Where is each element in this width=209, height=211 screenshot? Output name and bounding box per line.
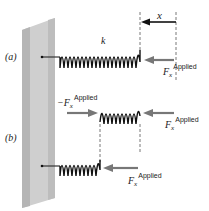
label-part-a: (a) bbox=[5, 52, 17, 62]
force-subscript: x bbox=[169, 71, 172, 79]
force-superscript: Applied bbox=[175, 116, 198, 123]
applied-force-arrow-a bbox=[144, 56, 174, 64]
spring-b-top bbox=[100, 112, 140, 125]
wall bbox=[22, 18, 55, 208]
force-superscript: Applied bbox=[173, 63, 196, 70]
neg-applied-force-arrow-b bbox=[67, 109, 98, 117]
label-applied-force-b-top: FxApplied bbox=[165, 120, 198, 130]
applied-force-arrow-b-top bbox=[143, 109, 174, 117]
label-neg-applied-force-b: −FxApplied bbox=[57, 98, 96, 108]
diagram-canvas bbox=[0, 0, 209, 211]
label-displacement: x bbox=[157, 10, 162, 21]
label-applied-force-b-bottom: FxApplied bbox=[128, 176, 161, 186]
label-spring-constant: k bbox=[101, 36, 105, 46]
force-superscript: Applied bbox=[74, 94, 97, 101]
force-subscript: x bbox=[171, 124, 174, 132]
spring-a bbox=[41, 50, 140, 68]
applied-force-arrow-b-bottom bbox=[103, 164, 138, 172]
force-subscript: x bbox=[134, 180, 137, 188]
force-subscript: x bbox=[70, 102, 73, 110]
label-part-b: (b) bbox=[5, 133, 17, 143]
label-applied-force-a: FxApplied bbox=[163, 67, 196, 77]
force-superscript: Applied bbox=[138, 172, 161, 179]
neg-force-symbol: −F bbox=[57, 97, 70, 108]
